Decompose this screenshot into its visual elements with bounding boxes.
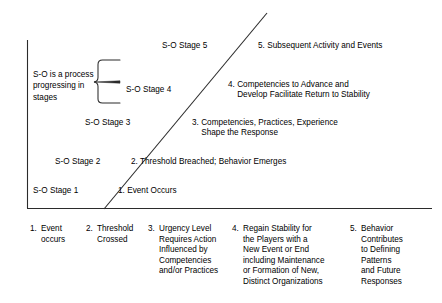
footer-item-3-number: 3. <box>148 224 159 235</box>
stage-label-4: S-O Stage 4 <box>126 85 171 95</box>
footer-item-4: 4. Regain Stability for the Players with… <box>232 224 344 288</box>
footer-item-1-text: Event occurs <box>41 224 65 245</box>
footer-item-2: 2. Threshold Crossed <box>86 224 156 245</box>
footer-item-5: 5. Behavior Contributes to Defining Patt… <box>350 224 430 288</box>
stage-description-5: 5. Subsequent Activity and Events <box>258 41 382 51</box>
stage-label-5: S-O Stage 5 <box>162 41 207 51</box>
stage-label-1: S-O Stage 1 <box>33 186 78 196</box>
stage-description-1: 1. Event Occurs <box>118 186 177 196</box>
diagram-canvas: S-O Stage 1 S-O Stage 2 S-O Stage 3 S-O … <box>0 0 442 303</box>
stage-description-2: 2. Threshold Breached; Behavior Emerges <box>131 157 286 167</box>
brace-shape <box>94 60 120 103</box>
footer-item-2-number: 2. <box>86 224 97 235</box>
footer-item-5-text: Behavior Contributes to Defining Pattern… <box>361 224 403 288</box>
brace-note-text: S-O is a process progressing in stages <box>33 69 94 103</box>
footer-item-3-text: Urgency Level Requires Action Influenced… <box>159 224 218 277</box>
footer-item-2-text: Threshold Crossed <box>97 224 133 245</box>
brace-pointer-wedge <box>94 81 120 83</box>
stage-label-2: S-O Stage 2 <box>55 157 100 167</box>
stage-label-3: S-O Stage 3 <box>85 118 130 128</box>
footer-item-5-number: 5. <box>350 224 361 235</box>
footer-item-4-number: 4. <box>232 224 243 235</box>
footer-item-1: 1. Event occurs <box>30 224 92 245</box>
footer-item-3: 3. Urgency Level Requires Action Influen… <box>148 224 236 277</box>
footer-item-1-number: 1. <box>30 224 41 235</box>
footer-item-4-text: Regain Stability for the Players with a … <box>243 224 324 288</box>
stage-description-3: 3. Competencies, Practices, Experience S… <box>192 118 338 139</box>
stage-description-4: 4. Competencies to Advance and Develop F… <box>228 80 370 101</box>
